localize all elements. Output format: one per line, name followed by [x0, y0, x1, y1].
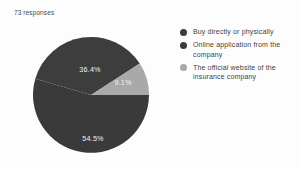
legend-item-label: Online application from the company	[193, 40, 298, 59]
legend-item-buy-directly[interactable]: Buy directly or physically	[180, 27, 298, 37]
pie-slice-label-1: 36.4%	[79, 65, 101, 74]
pie-chart-card: 73 responses 36.4% 9.1% 54.5% Buy direct…	[0, 0, 302, 169]
pie-slice-label-2: 9.1%	[114, 78, 132, 87]
chart-legend: Buy directly or physically Online applic…	[180, 27, 298, 85]
legend-item-online-application[interactable]: Online application from the company	[180, 40, 298, 59]
pie-slice-label-0: 54.5%	[82, 134, 104, 143]
legend-item-label: Buy directly or physically	[193, 27, 274, 37]
responses-count-label: 73 responses	[14, 9, 54, 16]
legend-swatch-icon	[180, 29, 187, 36]
pie-chart-figure: 36.4% 9.1% 54.5%	[30, 29, 152, 161]
legend-item-label: The official website of the insurance co…	[193, 63, 298, 82]
legend-swatch-icon	[180, 42, 187, 49]
pie-chart-svg: 36.4% 9.1% 54.5%	[30, 29, 152, 161]
legend-item-official-website[interactable]: The official website of the insurance co…	[180, 63, 298, 82]
legend-swatch-icon	[180, 64, 187, 71]
